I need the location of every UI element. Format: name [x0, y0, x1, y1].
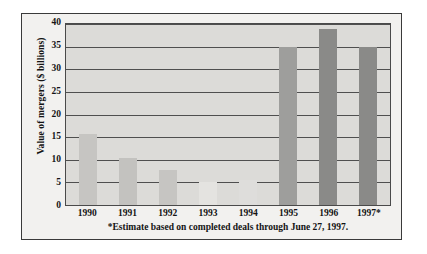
x-tick-1997: 1997*: [349, 208, 389, 218]
bar-slot: [308, 24, 348, 205]
bar-1996: [319, 29, 337, 205]
x-axis-tick-labels: 19901991199219931994199519961997*: [65, 208, 391, 218]
bar-slot: [268, 24, 308, 205]
bar-slot: [188, 24, 228, 205]
y-tick-35: 35: [39, 41, 61, 51]
x-tick-1994: 1994: [228, 208, 268, 218]
chart-footnote: *Estimate based on completed deals throu…: [65, 222, 391, 232]
y-axis-tick-labels: 0510152025303540: [39, 23, 61, 206]
x-tick-1991: 1991: [107, 208, 147, 218]
bar-slot: [148, 24, 188, 205]
y-tick-5: 5: [39, 178, 61, 188]
x-tick-1996: 1996: [309, 208, 349, 218]
y-tick-20: 20: [39, 110, 61, 120]
bar-1992: [159, 170, 177, 205]
chart-figure: Value of mergers ($ billions) 0510152025…: [21, 13, 402, 240]
bar-series: [66, 24, 390, 205]
bar-slot: [108, 24, 148, 205]
y-tick-15: 15: [39, 133, 61, 143]
x-tick-1990: 1990: [67, 208, 107, 218]
bar-1993: [199, 182, 217, 205]
x-tick-1992: 1992: [148, 208, 188, 218]
y-tick-10: 10: [39, 156, 61, 166]
x-tick-1995: 1995: [268, 208, 308, 218]
bar-slot: [348, 24, 388, 205]
y-tick-30: 30: [39, 64, 61, 74]
y-tick-25: 25: [39, 87, 61, 97]
bar-1994: [239, 180, 257, 205]
bar-1991: [119, 158, 137, 205]
bar-1995: [279, 47, 297, 205]
y-tick-40: 40: [39, 18, 61, 28]
bar-1997: [359, 47, 377, 205]
bar-slot: [228, 24, 268, 205]
y-tick-0: 0: [39, 201, 61, 211]
bar-1990: [79, 134, 97, 205]
plot-area: [65, 23, 391, 206]
x-tick-1993: 1993: [188, 208, 228, 218]
bar-slot: [68, 24, 108, 205]
